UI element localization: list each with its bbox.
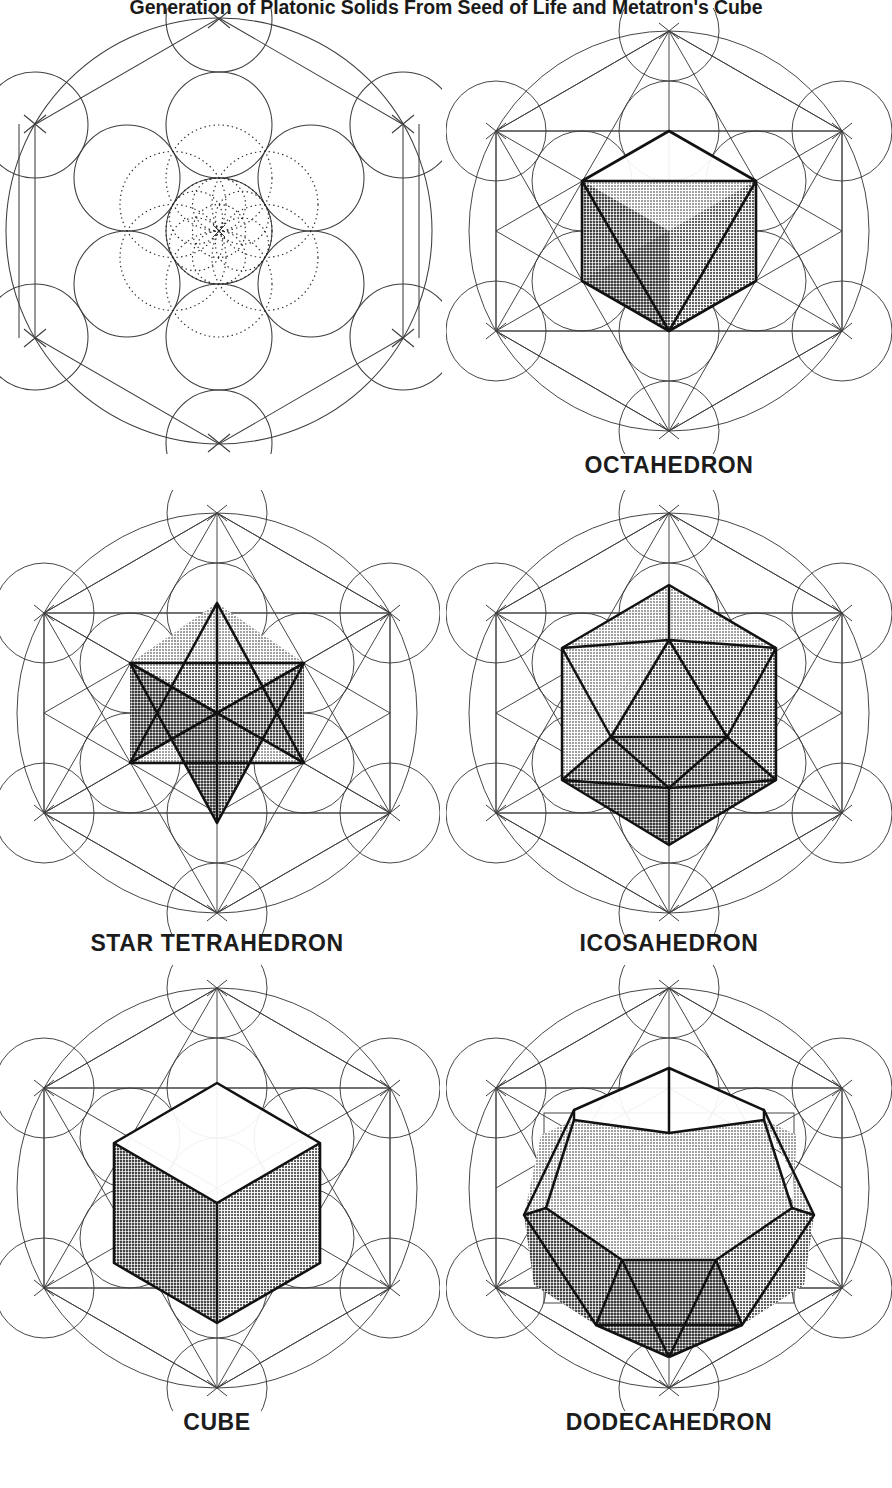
star-tetrahedron-figure bbox=[0, 490, 440, 936]
star-tetrahedron-edges bbox=[130, 603, 304, 823]
seed-of-life-figure bbox=[0, 8, 442, 454]
panel-icosahedron: ICOSAHEDRON bbox=[446, 490, 892, 986]
caption-dodecahedron: DODECAHEDRON bbox=[446, 1409, 892, 1436]
cube-figure bbox=[0, 965, 440, 1411]
panel-cube: CUBE bbox=[0, 965, 440, 1461]
caption-cube: CUBE bbox=[0, 1409, 440, 1436]
octahedron-figure bbox=[446, 8, 892, 454]
icosahedron-figure bbox=[446, 490, 892, 936]
caption-icosahedron: ICOSAHEDRON bbox=[446, 930, 892, 957]
panel-dodecahedron: DODECAHEDRON bbox=[446, 965, 892, 1461]
caption-octahedron: OCTAHEDRON bbox=[446, 452, 892, 479]
panel-octahedron: OCTAHEDRON bbox=[446, 8, 892, 504]
panel-star-tetrahedron: STAR TETRAHEDRON bbox=[0, 490, 440, 986]
fruit-of-life-circles bbox=[0, 8, 442, 454]
dodecahedron-figure bbox=[446, 965, 892, 1411]
octahedron-solid bbox=[582, 131, 756, 331]
panel-seed-of-life bbox=[0, 8, 442, 504]
caption-star-tetrahedron: STAR TETRAHEDRON bbox=[0, 930, 440, 957]
